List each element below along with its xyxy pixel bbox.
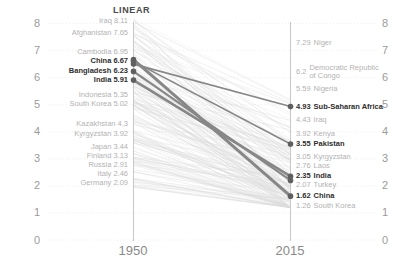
x-axis-label-1950: 1950 (103, 243, 163, 258)
scale-toggle-linear[interactable]: LINEAR (113, 5, 150, 15)
x-axis-label-2015: 2015 (260, 243, 320, 258)
slope-lines-canvas (0, 0, 415, 266)
fertility-slope-chart: 887766554433221100Iraq 8.11Afghanistan 7… (0, 0, 415, 266)
